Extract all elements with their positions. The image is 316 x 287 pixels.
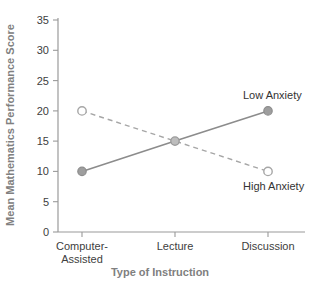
series-label-low-anxiety: Low Anxiety	[243, 89, 302, 101]
data-point-low-anxiety-computer-assisted	[78, 167, 86, 175]
y-tick-label-10: 10	[37, 165, 49, 177]
x-tick-label-lecture: Lecture	[157, 240, 194, 252]
y-axis-title: Mean Mathematics Performance Score	[4, 24, 16, 226]
x-axis-title: Type of Instruction	[111, 266, 209, 278]
x-tick-label-discussion: Discussion	[241, 240, 294, 252]
y-tick-label-20: 20	[37, 105, 49, 117]
data-point-lecture-crossing	[171, 137, 179, 145]
y-tick-label-30: 30	[37, 44, 49, 56]
y-tick-label-0: 0	[43, 226, 49, 238]
data-point-low-anxiety-discussion	[264, 107, 272, 115]
y-tick-marks	[53, 20, 58, 232]
x-tick-label-computer-assisted-line1: Computer-	[56, 240, 108, 252]
y-tick-label-25: 25	[37, 75, 49, 87]
chart-container: 0 5 10 15 20 25 30 35 Computer- Assisted…	[0, 0, 316, 287]
y-tick-label-15: 15	[37, 135, 49, 147]
x-tick-label-computer-assisted-line2: Assisted	[61, 253, 103, 265]
data-point-high-anxiety-computer-assisted	[78, 107, 86, 115]
y-tick-label-35: 35	[37, 14, 49, 26]
line-chart: 0 5 10 15 20 25 30 35 Computer- Assisted…	[0, 0, 316, 287]
y-tick-label-5: 5	[43, 196, 49, 208]
series-label-high-anxiety: High Anxiety	[243, 180, 305, 192]
data-point-high-anxiety-discussion	[264, 167, 272, 175]
x-tick-marks	[82, 232, 268, 237]
